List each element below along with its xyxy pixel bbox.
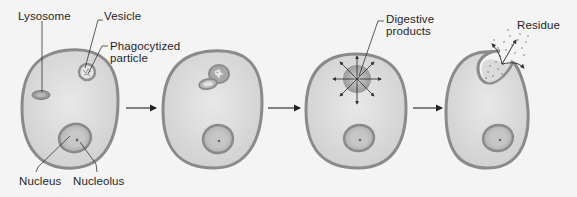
diagram-graphics [0, 0, 577, 197]
lysosome-digestion-diagram: Lysosome Vesicle Phagocytized particle N… [0, 0, 577, 197]
cell-stage-3 [306, 21, 406, 168]
cell-stage-4 [446, 29, 529, 168]
cell-stage-1 [22, 20, 118, 172]
cell-stage-2 [163, 51, 262, 168]
label-vesicle: Vesicle [104, 10, 141, 22]
label-digestive-products: Digestive products [386, 13, 434, 37]
label-phagocytized-particle: Phagocytized particle [110, 40, 180, 64]
label-nucleolus: Nucleolus [73, 175, 124, 187]
nucleolus-organelle [76, 139, 79, 142]
label-nucleus: Nucleus [19, 175, 61, 187]
label-residue: Residue [517, 19, 560, 31]
label-lysosome: Lysosome [18, 10, 71, 22]
